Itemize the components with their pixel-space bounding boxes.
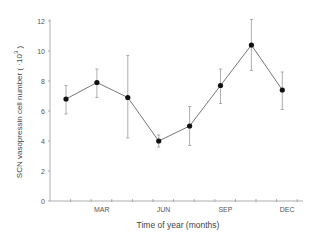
data-point bbox=[249, 42, 254, 47]
y-tick-label: 2 bbox=[41, 168, 45, 175]
y-tick-label: 4 bbox=[41, 138, 45, 145]
y-tick-label: 8 bbox=[41, 78, 45, 85]
data-point bbox=[63, 96, 68, 101]
data-point bbox=[156, 138, 161, 143]
y-tick-label: 12 bbox=[37, 18, 45, 25]
y-tick-label: 0 bbox=[41, 198, 45, 205]
x-tick-label: MAR bbox=[94, 206, 110, 213]
chart-canvas: 024681012MARJUNSEPDEC Time of year (mont… bbox=[0, 0, 319, 241]
y-axis-title: SCN vasopressin cell number ( ·103 ) bbox=[13, 46, 24, 179]
data-point bbox=[218, 83, 223, 88]
series-line bbox=[66, 45, 282, 141]
data-point bbox=[125, 95, 130, 100]
data-point bbox=[280, 87, 285, 92]
data-point bbox=[187, 123, 192, 128]
x-tick-label: SEP bbox=[218, 206, 232, 213]
x-axis-title: Time of year (months) bbox=[137, 220, 220, 230]
y-tick-label: 10 bbox=[37, 48, 45, 55]
data-point bbox=[94, 80, 99, 85]
y-tick-label: 6 bbox=[41, 108, 45, 115]
series-polyline bbox=[66, 45, 282, 141]
x-tick-label: JUN bbox=[157, 206, 171, 213]
x-tick-label: DEC bbox=[280, 206, 295, 213]
axes: 024681012MARJUNSEPDEC bbox=[37, 18, 303, 214]
